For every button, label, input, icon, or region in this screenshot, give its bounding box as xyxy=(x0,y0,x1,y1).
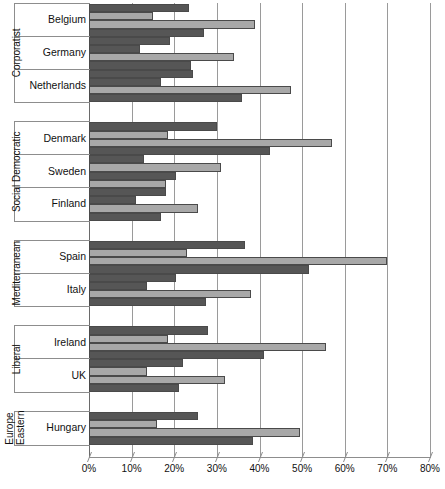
country-label-sweden: Sweden xyxy=(14,165,86,177)
gridline-50 xyxy=(302,3,303,457)
bar xyxy=(89,298,206,306)
bar xyxy=(89,257,387,265)
bar xyxy=(89,437,253,445)
bar xyxy=(89,188,166,196)
bar xyxy=(89,20,255,28)
bar xyxy=(89,70,193,78)
country-separator xyxy=(14,36,90,37)
x-tick-label: 0% xyxy=(69,463,109,474)
country-label-netherlands: Netherlands xyxy=(14,79,86,91)
regime-group-label-text: Mediterranean xyxy=(11,241,22,307)
regime-group-label-text: Social Democratic xyxy=(11,122,22,220)
bar xyxy=(89,326,208,334)
bar xyxy=(89,213,161,221)
gridline-30 xyxy=(217,3,218,457)
x-tick-label: 50% xyxy=(282,463,322,474)
bar xyxy=(89,155,144,163)
bar xyxy=(89,78,161,86)
x-tick-label: 30% xyxy=(197,463,237,474)
country-separator xyxy=(14,240,90,241)
bar xyxy=(89,335,168,343)
gridline-40 xyxy=(260,3,261,457)
bar xyxy=(89,420,157,428)
country-separator xyxy=(14,325,90,326)
bar xyxy=(89,196,136,204)
bar xyxy=(89,61,191,69)
bar xyxy=(89,428,300,436)
country-separator xyxy=(14,69,90,70)
x-tick-label: 40% xyxy=(240,463,280,474)
country-label-finland: Finland xyxy=(14,197,86,209)
x-tick-label: 70% xyxy=(367,463,407,474)
country-separator xyxy=(14,154,90,155)
group-separator xyxy=(14,392,90,393)
bar xyxy=(89,274,176,282)
bar xyxy=(89,122,217,130)
bar xyxy=(89,265,309,273)
bar xyxy=(89,412,198,420)
bar xyxy=(89,367,147,375)
country-label-denmark: Denmark xyxy=(14,132,86,144)
bar xyxy=(89,147,270,155)
bar xyxy=(89,282,147,290)
country-label-belgium: Belgium xyxy=(14,13,86,25)
bar xyxy=(89,53,234,61)
bar xyxy=(89,131,168,139)
country-label-germany: Germany xyxy=(14,46,86,58)
bar xyxy=(89,384,179,392)
bar xyxy=(89,249,187,257)
country-label-spain: Spain xyxy=(14,250,86,262)
bar xyxy=(89,290,251,298)
group-separator xyxy=(14,102,90,103)
country-label-italy: Italy xyxy=(14,283,86,295)
bar xyxy=(89,359,183,367)
bar xyxy=(89,343,326,351)
group-separator xyxy=(14,306,90,307)
country-separator xyxy=(14,3,90,4)
bar xyxy=(89,45,140,53)
bar xyxy=(89,29,204,37)
bar xyxy=(89,4,189,12)
country-label-ireland: Ireland xyxy=(14,336,86,348)
bar xyxy=(89,139,332,147)
country-label-uk: UK xyxy=(14,369,86,381)
bar xyxy=(89,12,153,20)
bar xyxy=(89,163,221,171)
x-tick-label: 60% xyxy=(325,463,365,474)
country-separator xyxy=(14,273,90,274)
regime-group-label-text: Corporatist xyxy=(11,4,22,102)
bar xyxy=(89,180,166,188)
country-separator xyxy=(14,187,90,188)
bar xyxy=(89,94,242,102)
country-separator xyxy=(14,121,90,122)
bar xyxy=(89,37,170,45)
bar xyxy=(89,241,245,249)
gridline-80 xyxy=(430,3,431,457)
bar xyxy=(89,351,264,359)
regime-group-label-text: EuropeEastern xyxy=(4,412,26,445)
bar xyxy=(89,172,176,180)
bar xyxy=(89,376,225,384)
x-tick-label: 10% xyxy=(112,463,152,474)
bar xyxy=(89,204,198,212)
x-tick-label: 20% xyxy=(154,463,194,474)
x-tick-label: 80% xyxy=(410,463,445,474)
country-separator xyxy=(14,358,90,359)
gridline-70 xyxy=(387,3,388,457)
regime-group-label-text: Liberal xyxy=(11,326,22,392)
gridline-60 xyxy=(345,3,346,457)
bar xyxy=(89,86,291,94)
group-separator xyxy=(14,221,90,222)
